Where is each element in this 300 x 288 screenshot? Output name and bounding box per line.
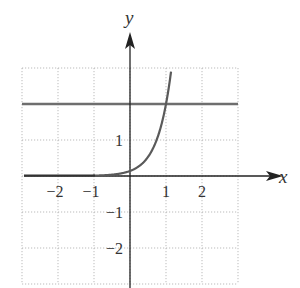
x-tick-label: 1: [162, 183, 170, 200]
y-tick-labels: 1−1−2: [106, 132, 123, 257]
exponential-curve: [94, 72, 171, 176]
y-axis-label: y: [123, 7, 134, 28]
x-axis-label: x: [278, 166, 288, 187]
x-tick-label: −2: [46, 183, 63, 200]
y-tick-label: −2: [106, 240, 123, 257]
x-tick-label: 2: [198, 183, 206, 200]
chart-svg: x y −2−112 1−1−2: [0, 0, 300, 288]
y-tick-label: −1: [106, 204, 123, 221]
x-tick-label: −1: [82, 183, 99, 200]
x-tick-labels: −2−112: [46, 183, 206, 200]
y-tick-label: 1: [115, 132, 123, 149]
